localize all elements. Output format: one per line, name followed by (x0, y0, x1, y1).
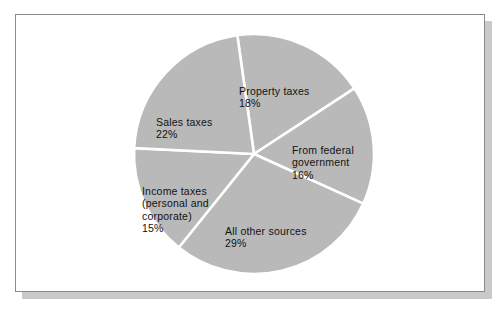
pie-chart: Property taxes 18% From federal governme… (16, 15, 486, 293)
slice-label-income-taxes-text: Income taxes (personal and corporate) (142, 185, 209, 222)
slice-label-income-taxes: Income taxes (personal and corporate) 15… (142, 172, 246, 247)
slice-label-sales-taxes-percent: 22% (156, 128, 256, 141)
slice-label-from-federal-government: From federal government 16% (292, 131, 384, 194)
slice-label-from-federal-government-text: From federal government (292, 144, 354, 169)
slice-label-from-federal-government-percent: 16% (292, 169, 384, 182)
slice-label-property-taxes-text: Property taxes (239, 85, 310, 97)
chart-panel: Property taxes 18% From federal governme… (15, 14, 485, 292)
slice-label-income-taxes-percent: 15% (142, 222, 246, 235)
slice-label-sales-taxes: Sales taxes 22% (156, 103, 256, 153)
figure-root: Property taxes 18% From federal governme… (0, 0, 500, 312)
slice-label-sales-taxes-text: Sales taxes (156, 116, 212, 128)
